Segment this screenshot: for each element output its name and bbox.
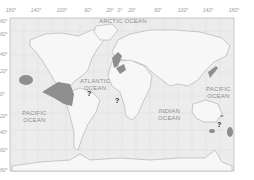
ocean-label-atlantic: ATLANTIC OCEAN xyxy=(80,78,110,92)
longitude-label: 140° xyxy=(203,7,213,13)
question-marker: ? xyxy=(115,97,119,104)
longitude-label: 60° xyxy=(84,7,92,13)
latitude-label: 40° xyxy=(0,51,8,57)
latitude-label: 80° xyxy=(0,18,8,24)
latitude-label: 80° xyxy=(0,167,8,173)
longitude-label: 180° xyxy=(6,7,16,13)
longitude-label: 20° xyxy=(106,7,114,13)
latitude-label: 60° xyxy=(0,31,8,37)
latitude-label: 20° xyxy=(0,113,8,119)
longitude-label: 140° xyxy=(31,7,41,13)
ocean-label-pacific-east: PACIFIC OCEAN xyxy=(206,86,231,100)
ocean-label-arctic: ARCTIC OCEAN xyxy=(99,18,147,25)
latitude-label: 60° xyxy=(0,147,8,153)
ocean-label-pacific-west: PACIFIC OCEAN xyxy=(22,110,47,124)
latitude-label: 20° xyxy=(0,68,8,74)
longitude-label: 60° xyxy=(154,7,162,13)
longitude-label: 100° xyxy=(57,7,67,13)
longitude-label: 180° xyxy=(229,7,239,13)
ocean-label-indian: INDIAN OCEAN xyxy=(158,108,180,122)
question-marker: ? xyxy=(217,121,221,128)
latitude-label: 40° xyxy=(0,129,8,135)
longitude-label: 20° xyxy=(128,7,136,13)
latitude-label: 0° xyxy=(0,91,5,97)
longitude-label: 100° xyxy=(178,7,188,13)
longitude-label: 0° xyxy=(118,7,123,13)
question-marker: ? xyxy=(87,90,91,97)
world-map: 180° 140° 100° 60° 20° 0° 20° 60° 100° 1… xyxy=(0,0,254,180)
